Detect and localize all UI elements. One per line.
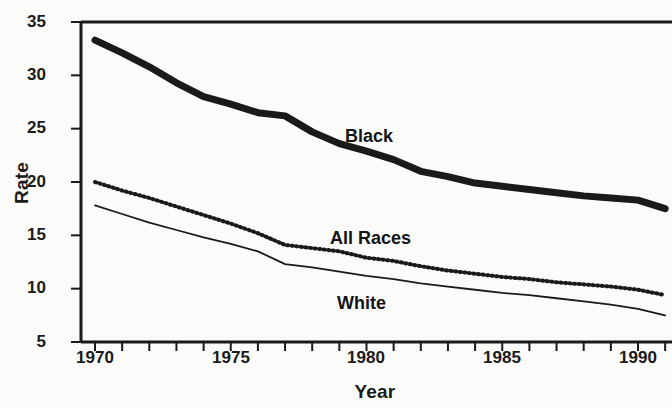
x-axis-title: Year (335, 381, 415, 403)
x-tick-label-1985: 1985 (472, 348, 532, 368)
y-tick-label-10: 10 (12, 278, 46, 298)
series-label-black: Black (345, 126, 393, 147)
chart-figure: 35 30 25 20 15 10 5 1970 1975 1980 1985 … (0, 0, 672, 408)
x-tick-label-1980: 1980 (336, 348, 396, 368)
y-tick-label-35: 35 (12, 12, 46, 32)
series-label-all-races: All Races (330, 228, 411, 249)
y-axis-title: Rate (11, 143, 33, 223)
series-line-black (95, 40, 665, 209)
y-tick-label-30: 30 (12, 65, 46, 85)
series-label-white: White (337, 293, 386, 314)
series-lines (95, 40, 665, 315)
y-tick-label-15: 15 (12, 225, 46, 245)
y-tick-label-25: 25 (12, 118, 46, 138)
y-tick-label-5: 5 (12, 332, 46, 352)
x-tick-label-1975: 1975 (201, 348, 261, 368)
chart-plot-area (0, 0, 672, 408)
x-tick-label-1970: 1970 (65, 348, 125, 368)
x-tick-label-1990: 1990 (608, 348, 668, 368)
